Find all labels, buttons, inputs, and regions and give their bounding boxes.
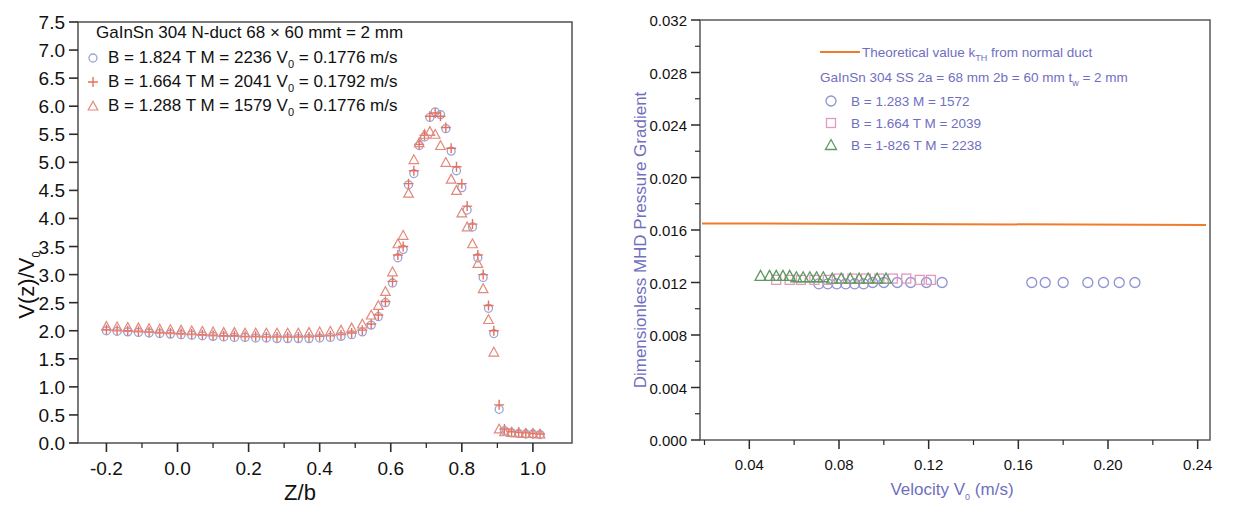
svg-text:4.5: 4.5 bbox=[39, 180, 65, 201]
svg-text:4.0: 4.0 bbox=[39, 208, 65, 229]
svg-text:5.5: 5.5 bbox=[39, 124, 65, 145]
pressure-gradient-plot: 0.040.080.120.160.200.24 0.0000.0040.008… bbox=[622, 0, 1242, 510]
data-markers-right bbox=[755, 270, 1140, 288]
data-markers-left bbox=[101, 108, 545, 439]
legend-left: GaInSn 304 N-duct 68 × 60 mmt = 2 mmB = … bbox=[88, 23, 403, 118]
svg-text:0.0: 0.0 bbox=[39, 433, 65, 454]
legend-entry-0: B = 1.824 T M = 2236 V0 = 0.1776 m/s bbox=[89, 48, 398, 70]
svg-text:0.012: 0.012 bbox=[649, 275, 687, 292]
svg-text:3.0: 3.0 bbox=[39, 265, 65, 286]
legend-entry-2: B = 1.288 T M = 1579 V0 = 0.1776 m/s bbox=[88, 96, 397, 118]
legend-title-left: GaInSn 304 N-duct 68 × 60 mmt = 2 mm bbox=[96, 23, 403, 42]
svg-text:0.024: 0.024 bbox=[649, 117, 687, 134]
svg-text:Dimensionless MHD Pressure Gra: Dimensionless MHD Pressure Gradient bbox=[631, 91, 650, 388]
svg-text:B = 1-826 T M = 2238: B = 1-826 T M = 2238 bbox=[851, 138, 982, 153]
legend-entry-right-1: B = 1.664 T M = 2039 bbox=[827, 116, 982, 131]
legend-entry-right-0: B = 1.283 M = 1572 bbox=[826, 94, 970, 109]
svg-text:0.000: 0.000 bbox=[649, 432, 687, 449]
svg-text:B = 1.664 T M = 2039: B = 1.664 T M = 2039 bbox=[851, 116, 981, 131]
svg-text:5.0: 5.0 bbox=[39, 152, 65, 173]
svg-text:B = 1.824 T M = 2236 V0 = 0.: B = 1.824 T M = 2236 V0 = 0.1776 m/s bbox=[108, 48, 398, 70]
legend-title-right: GaInSn 304 SS 2a = 68 mm 2b = 60 mm tw =… bbox=[820, 70, 1128, 88]
svg-text:V(z)/V0: V(z)/V0 bbox=[14, 251, 42, 318]
svg-text:0.04: 0.04 bbox=[735, 456, 764, 473]
svg-text:-0.2: -0.2 bbox=[90, 458, 123, 479]
svg-text:0.020: 0.020 bbox=[649, 170, 687, 187]
theoretical-value-line bbox=[702, 223, 1206, 225]
svg-text:1.0: 1.0 bbox=[39, 377, 65, 398]
svg-text:0.5: 0.5 bbox=[39, 405, 65, 426]
figure-root: -0.20.00.20.40.60.81.0 0.00.51.01.52.02.… bbox=[0, 0, 1242, 510]
legend-right: Theoretical value kTH from normal ductGa… bbox=[820, 45, 1128, 153]
series-triangle bbox=[102, 127, 545, 438]
legend-theory-label: Theoretical value kTH from normal duct bbox=[862, 45, 1093, 63]
x-axis-title-left: Z/b bbox=[284, 480, 316, 505]
legend-entry-right-2: B = 1-826 T M = 2238 bbox=[826, 138, 982, 153]
svg-text:6.0: 6.0 bbox=[39, 96, 65, 117]
svg-text:0.032: 0.032 bbox=[649, 12, 687, 29]
svg-text:B = 1.288 T M = 1579 V0 = 0.: B = 1.288 T M = 1579 V0 = 0.1776 m/s bbox=[108, 96, 398, 118]
y-axis-ticks-right: 0.0000.0040.0080.0120.0160.0200.0240.028… bbox=[649, 12, 700, 449]
svg-text:1.0: 1.0 bbox=[520, 458, 546, 479]
series-plus bbox=[101, 108, 545, 439]
svg-text:2.0: 2.0 bbox=[39, 321, 65, 342]
velocity-profile-plot: -0.20.00.20.40.60.81.0 0.00.51.01.52.02.… bbox=[0, 0, 620, 510]
x-axis-ticks-right: 0.040.080.120.160.200.24 bbox=[704, 440, 1212, 473]
svg-text:0.2: 0.2 bbox=[235, 458, 261, 479]
svg-text:0.24: 0.24 bbox=[1183, 456, 1212, 473]
velocity-profile-panel: -0.20.00.20.40.60.81.0 0.00.51.01.52.02.… bbox=[0, 0, 620, 510]
svg-text:2.5: 2.5 bbox=[39, 293, 65, 314]
legend-entry-1: B = 1.664 T M = 2041 V0 = 0.1792 m/s bbox=[88, 72, 398, 94]
svg-text:0.20: 0.20 bbox=[1093, 456, 1122, 473]
svg-text:0.008: 0.008 bbox=[649, 327, 687, 344]
svg-text:7.0: 7.0 bbox=[39, 40, 65, 61]
svg-text:0.16: 0.16 bbox=[1004, 456, 1033, 473]
pressure-gradient-panel: 0.040.080.120.160.200.24 0.0000.0040.008… bbox=[622, 0, 1242, 510]
svg-text:7.5: 7.5 bbox=[39, 12, 65, 33]
svg-text:0.6: 0.6 bbox=[378, 458, 404, 479]
svg-text:0.08: 0.08 bbox=[824, 456, 853, 473]
x-axis-ticks-left: -0.20.00.20.40.60.81.0 bbox=[90, 443, 546, 479]
x-axis-title-right: Velocity V0 (m/s) bbox=[890, 480, 1013, 502]
y-axis-ticks-left: 0.00.51.01.52.02.53.03.54.04.55.05.56.06… bbox=[39, 12, 78, 454]
svg-text:0.016: 0.016 bbox=[649, 222, 687, 239]
y-axis-title-left: V(z)/V0 bbox=[14, 251, 42, 318]
y-axis-title-right: Dimensionless MHD Pressure Gradient bbox=[631, 91, 650, 388]
svg-text:0.12: 0.12 bbox=[914, 456, 943, 473]
svg-text:0.028: 0.028 bbox=[649, 65, 687, 82]
svg-text:0.004: 0.004 bbox=[649, 380, 687, 397]
svg-text:B = 1.664 T M = 2041 V0 = 0.: B = 1.664 T M = 2041 V0 = 0.1792 m/s bbox=[108, 72, 398, 94]
svg-text:1.5: 1.5 bbox=[39, 349, 65, 370]
svg-text:B = 1.283 M = 1572: B = 1.283 M = 1572 bbox=[851, 94, 970, 109]
svg-text:0.0: 0.0 bbox=[164, 458, 190, 479]
series-circle bbox=[102, 108, 544, 439]
svg-text:3.5: 3.5 bbox=[39, 237, 65, 258]
svg-text:6.5: 6.5 bbox=[39, 68, 65, 89]
svg-text:0.8: 0.8 bbox=[449, 458, 475, 479]
svg-text:0.4: 0.4 bbox=[306, 458, 333, 479]
